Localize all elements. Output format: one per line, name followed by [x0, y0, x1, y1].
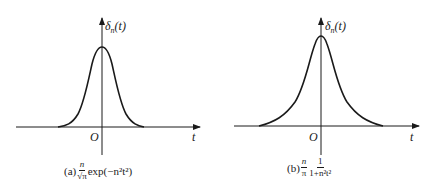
caption-a: (a) n √π exp(−n²t²) — [64, 160, 132, 181]
fraction-denominator: 1+n²t² — [309, 168, 331, 178]
y-axis-label: δn(t) — [325, 20, 346, 35]
fraction-denominator: π — [302, 168, 307, 178]
fraction-numerator: n — [301, 157, 308, 168]
x-axis-label: t — [192, 131, 195, 143]
caption-expression: exp(−n²t²) — [88, 165, 133, 177]
origin-label: O — [90, 131, 99, 143]
panel-gaussian: δn(t) O t (a) n √π exp(−n²t²) — [0, 0, 217, 190]
caption-tag: (a) — [64, 165, 76, 177]
panel-lorentzian: δn(t) O t (b) n π 1 1+n²t² — [217, 0, 434, 190]
caption-b: (b) n π 1 1+n²t² — [287, 157, 332, 178]
fraction-2: 1 1+n²t² — [309, 157, 331, 178]
caption-tag: (b) — [287, 162, 300, 174]
fraction-numerator: n — [79, 160, 86, 171]
fraction-denominator: √π — [77, 171, 86, 181]
gaussian-curve — [58, 47, 144, 127]
y-axis-label: δn(t) — [105, 20, 126, 35]
fraction-numerator: 1 — [317, 157, 324, 168]
x-axis-label: t — [410, 131, 413, 143]
origin-label: O — [309, 131, 318, 143]
fraction: n π — [301, 157, 308, 178]
fraction: n √π — [77, 160, 86, 181]
